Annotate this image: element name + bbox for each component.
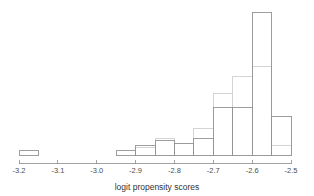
x-axis-title: logit propensity scores	[115, 182, 200, 192]
histogram-bar	[155, 141, 174, 155]
histogram-bar	[233, 76, 252, 155]
x-axis-tick-label: -2.8	[168, 166, 181, 175]
histogram-bar	[272, 145, 291, 155]
histogram-bar	[174, 143, 193, 155]
x-axis-tick-marks	[19, 160, 291, 164]
histogram-bar	[272, 117, 291, 155]
histogram-series-treated	[19, 12, 291, 155]
x-axis-tick-labels: -3.2-3.1-3.0-2.9-2.8-2.7-2.6-2.5	[13, 166, 298, 175]
histogram-bar	[194, 129, 213, 155]
x-axis-tick-label: -3.0	[90, 166, 103, 175]
histogram-bar	[252, 12, 271, 155]
histogram-bar	[213, 107, 232, 155]
histogram-plot: -3.2-3.1-3.0-2.9-2.8-2.7-2.6-2.5 logit p…	[0, 0, 314, 196]
x-axis-tick-label: -3.1	[51, 166, 64, 175]
x-axis-tick-label: -2.7	[207, 166, 220, 175]
x-axis: -3.2-3.1-3.0-2.9-2.8-2.7-2.6-2.5	[13, 160, 298, 175]
histogram-bar	[19, 150, 38, 155]
histogram-bar	[233, 107, 252, 155]
histogram-bar	[136, 148, 155, 155]
x-axis-tick-label: -2.6	[246, 166, 259, 175]
histogram-bar	[174, 143, 193, 155]
plot-canvas: -3.2-3.1-3.0-2.9-2.8-2.7-2.6-2.5 logit p…	[0, 0, 314, 196]
x-axis-tick-label: -2.9	[129, 166, 142, 175]
histogram-bar	[194, 138, 213, 155]
x-axis-tick-label: -2.5	[285, 166, 298, 175]
histogram-bar	[213, 93, 232, 155]
x-axis-tick-label: -3.2	[13, 166, 26, 175]
histogram-bar	[252, 67, 271, 155]
histogram-bar	[136, 145, 155, 155]
histogram-bar	[116, 150, 135, 155]
